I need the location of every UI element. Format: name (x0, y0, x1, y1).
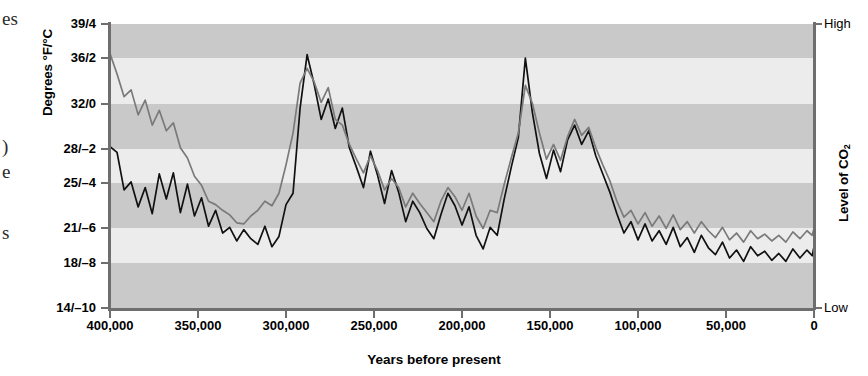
x-axis-tick (461, 310, 463, 318)
x-axis-tick-label: 150,000 (527, 318, 574, 333)
y-axis-tick-label: 25/–4 (0, 175, 96, 190)
y-axis-tick (101, 103, 108, 105)
x-axis-tick (109, 310, 111, 318)
y-axis-tick (101, 182, 108, 184)
y-axis-tick-label: 21/–6 (0, 220, 96, 235)
y2-axis-line (813, 22, 816, 310)
x-axis-tick-label: 400,000 (87, 318, 134, 333)
y-axis-tick (101, 148, 108, 150)
y2-axis-title-text: Level of CO (836, 149, 851, 222)
y-axis-tick-label: 14/–10 (0, 300, 96, 315)
y-axis-title: Degrees °F/°C (40, 29, 55, 116)
y-axis-tick (101, 262, 108, 264)
x-axis-tick-label: 350,000 (175, 318, 222, 333)
y2-axis-tick (815, 307, 822, 309)
y2-axis-title: Level of CO2 (836, 144, 851, 222)
x-axis-tick-label: 50,000 (706, 318, 746, 333)
plot-area (110, 24, 814, 308)
y2-axis-title-subscript: 2 (842, 144, 852, 149)
y-axis-tick (101, 23, 108, 25)
x-axis-tick (197, 310, 199, 318)
x-axis-tick (373, 310, 375, 318)
x-axis-tick-label: 250,000 (351, 318, 398, 333)
y-axis-tick (101, 57, 108, 59)
y2-axis-tick-label: High (824, 16, 851, 31)
x-axis-tick-label: 100,000 (615, 318, 662, 333)
y-axis-tick (101, 227, 108, 229)
x-axis-tick (285, 310, 287, 318)
x-axis-tick-label: 200,000 (439, 318, 486, 333)
y-axis-line (108, 22, 111, 310)
chart-figure: es)es 14/–1018/–821/–625/–428/–232/036/2… (0, 0, 868, 376)
y2-axis-tick-label: Low (824, 300, 848, 315)
x-axis-tick-label: 0 (810, 318, 817, 333)
series-layer (110, 24, 814, 308)
x-axis-tick (549, 310, 551, 318)
y2-axis-tick (815, 23, 822, 25)
x-axis-tick (637, 310, 639, 318)
y-axis-tick (101, 307, 108, 309)
x-axis-tick-label: 300,000 (263, 318, 310, 333)
x-axis-tick (725, 310, 727, 318)
y-axis-tick-label: 28/–2 (0, 141, 96, 156)
x-axis-tick (813, 310, 815, 318)
x-axis-title: Years before present (0, 352, 868, 367)
y-axis-tick-label: 18/–8 (0, 255, 96, 270)
series-line (110, 54, 814, 243)
